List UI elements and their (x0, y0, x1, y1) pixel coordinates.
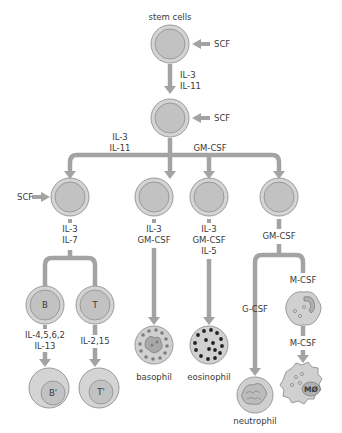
gcsf-label: G-CSF (242, 304, 268, 314)
gmcsf-label-2: GM-CSF (137, 235, 170, 245)
mcsf-label-1: M-CSF (290, 275, 317, 285)
il4-label: IL-4,5,6,2 (25, 330, 65, 340)
hematopoiesis-diagram: stem cells SCF IL-3 IL-11 SCF IL-3 IL-11… (0, 0, 342, 433)
scf-label-2: SCF (214, 113, 230, 123)
svg-text:T: T (91, 300, 98, 310)
lymphoid-progenitor-cell (51, 178, 89, 216)
scf-arrow-icon (192, 113, 210, 123)
myeloid-precursor-cell (260, 178, 298, 216)
scf-label-3: SCF (17, 192, 33, 202)
il11-label-2: IL-11 (110, 143, 131, 153)
scf-arrow-icon (192, 39, 210, 49)
gmcsf-label-4: GM-CSF (262, 231, 295, 241)
macrophage-cell: MØ (280, 362, 322, 404)
mcsf-label-2: M-CSF (290, 338, 317, 348)
svg-text:T': T' (96, 387, 105, 397)
il3-label-2: IL-3 (112, 132, 128, 142)
scf-arrow-icon (32, 192, 50, 202)
gmcsf-label-1: GM-CSF (193, 143, 226, 153)
activated-b-cell: B' (29, 368, 69, 408)
stem-cell (151, 25, 189, 63)
monocyte-cell (286, 292, 321, 326)
il3-label-1: IL-3 (180, 70, 196, 80)
eosinophil-label: eosinophil (187, 372, 230, 382)
eosinophil-precursor-cell (190, 178, 228, 216)
scf-label-1: SCF (214, 39, 230, 49)
basophil-cell (135, 326, 173, 364)
il11-label-1: IL-11 (180, 81, 201, 91)
lymphoid-branch-path (45, 250, 95, 288)
il2-label: IL-2,15 (80, 336, 109, 346)
stem-cells-label: stem cells (148, 12, 192, 22)
il3-label-4: IL-3 (146, 224, 162, 234)
il13-label: IL-13 (35, 341, 56, 351)
il3-label-3: IL-3 (62, 224, 78, 234)
svg-text:B': B' (49, 388, 57, 398)
basophil-precursor-cell (135, 178, 173, 216)
branch-paths (64, 138, 285, 179)
b-cell: B (26, 286, 64, 324)
t-cell: T (76, 286, 114, 324)
progenitor-cell (151, 99, 189, 137)
il3-label-5: IL-3 (201, 224, 217, 234)
neutrophil-cell (237, 377, 273, 413)
neutrophil-label: neutrophil (233, 416, 276, 426)
eosinophil-cell (190, 326, 228, 364)
basophil-label: basophil (136, 372, 172, 382)
svg-text:B: B (42, 300, 48, 310)
activated-t-cell: T' (79, 368, 119, 408)
il5-label: IL-5 (201, 246, 217, 256)
gmcsf-label-3: GM-CSF (192, 235, 225, 245)
il7-label: IL-7 (62, 235, 78, 245)
svg-text:MØ: MØ (304, 385, 318, 394)
